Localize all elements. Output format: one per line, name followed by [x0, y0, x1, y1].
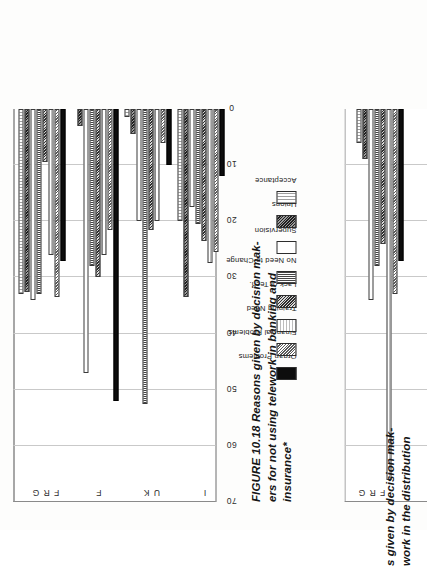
swatch-dark-cross-icon	[276, 215, 296, 228]
bar-f-financial-problems	[107, 109, 112, 230]
swatch-solid-black-icon	[276, 367, 296, 380]
bar-uk-lack-of-tech	[148, 109, 153, 230]
bar-f-training-need	[101, 109, 106, 255]
bar-b-frg-supervision	[368, 109, 373, 300]
swatch-grey-vertical-icon	[276, 191, 296, 204]
legend-label-b-no-need-to-change: No Need to Change	[225, 256, 296, 265]
swatch-empty-white-icon	[276, 241, 296, 254]
bar-frg-no-need-to-change	[36, 109, 41, 294]
bar-uk-no-need-to-change	[142, 109, 147, 404]
swatch-dark-diagonal-icon	[276, 295, 296, 308]
bar-frg-acceptance	[18, 109, 23, 294]
caption-b-line-1: s given by decision mak-	[382, 136, 398, 566]
legend-figure-distribution: Organ Problems Financial Problems Traini…	[190, 40, 306, 380]
bar-frg-unions	[24, 109, 29, 292]
caption-figure-distribution: s given by decision mak- work in the dis…	[382, 136, 413, 566]
bar-uk-acceptance	[124, 109, 129, 117]
bar-b-frg-acceptance	[356, 109, 361, 143]
bar-uk-training-need	[154, 109, 159, 221]
bar-i-acceptance	[177, 109, 182, 221]
swatch-cross-hatch-icon	[276, 343, 296, 356]
bar-frg-financial-problems	[54, 109, 59, 297]
bar-f-lack-of-tech	[95, 109, 100, 277]
plot-frame-top	[13, 109, 14, 502]
legend-label-b-acceptance: Acceptance	[254, 176, 296, 185]
bar-uk-unions	[130, 109, 135, 134]
gridline-70	[13, 501, 215, 502]
bar-frg-training-need	[48, 109, 53, 255]
bar-f-no-need-to-change	[89, 109, 94, 266]
xtick-50: 50	[222, 384, 240, 394]
bar-f-organ-problems	[113, 109, 118, 401]
bar-frg-organ-problems	[60, 109, 65, 261]
swatch-light-horiz-icon	[276, 319, 296, 332]
bar-uk-financial-problems	[160, 109, 165, 143]
bar-uk-supervision	[136, 109, 141, 221]
bar-i-unions	[183, 109, 188, 297]
bar-b-frg-unions	[362, 109, 367, 159]
group-label-f: F	[87, 488, 109, 498]
swatch-vertical-lines-icon	[276, 271, 296, 284]
group-label-i: I	[195, 488, 213, 498]
bar-frg-supervision	[30, 109, 35, 300]
bar-uk-organ-problems	[166, 109, 171, 165]
group-label-uk: U K	[136, 488, 166, 498]
xtick-70: 70	[222, 496, 240, 506]
xtick-60: 60	[222, 440, 240, 450]
bar-frg-lack-of-tech	[42, 109, 47, 162]
bar-f-supervision	[83, 109, 88, 373]
bar-f-unions	[77, 109, 82, 126]
gridline-60	[13, 445, 215, 446]
caption-b-line-2: work in the distribution	[398, 136, 414, 566]
group-label-frg: F R G	[28, 488, 62, 498]
bar-b-frg-no-need-to-change	[374, 109, 379, 266]
